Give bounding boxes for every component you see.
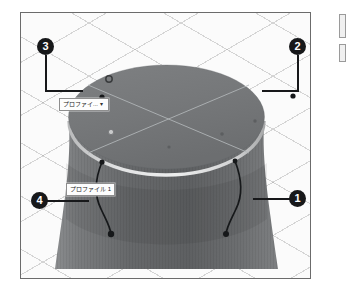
3d-model-viewport[interactable]: プロファイ...▾ プロファイル 1	[20, 12, 311, 279]
screenshot-root: プロファイ...▾ プロファイル 1 3 2 1 4	[0, 0, 354, 304]
callout-4: 4	[31, 192, 48, 209]
callout-3-leader-horizontal	[45, 90, 83, 92]
edge-chip-top[interactable]	[339, 14, 346, 38]
callout-3: 3	[37, 38, 54, 55]
chevron-down-icon[interactable]: ▾	[98, 100, 105, 109]
model-scene	[21, 13, 311, 279]
callout-2-leader-horizontal	[262, 90, 299, 92]
callout-2: 2	[289, 38, 306, 55]
top-face	[69, 65, 265, 169]
profile-1-label[interactable]: プロファイル 1	[66, 183, 115, 196]
edge-chip-bottom[interactable]	[339, 44, 346, 62]
profile-dropdown-text: プロファイ...	[63, 100, 98, 109]
callout-4-leader	[47, 200, 89, 202]
profile-1-text: プロファイル 1	[70, 185, 111, 194]
callout-1: 1	[289, 190, 306, 207]
callout-2-leader-vertical	[297, 55, 299, 91]
callout-3-leader-vertical	[45, 55, 47, 91]
callout-1-leader	[253, 198, 291, 200]
profile-dropdown-label[interactable]: プロファイ...▾	[59, 98, 109, 111]
